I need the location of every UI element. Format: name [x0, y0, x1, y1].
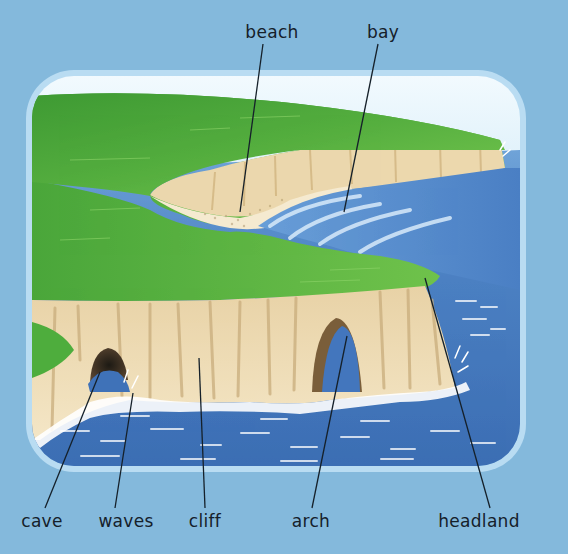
- label-arch: arch: [292, 513, 330, 530]
- label-beach: beach: [245, 24, 298, 41]
- label-headland: headland: [438, 513, 520, 530]
- label-cave: cave: [21, 513, 62, 530]
- coastal-landforms-diagram: beach bay cave waves cliff arch headland: [0, 0, 568, 554]
- illustration: [0, 0, 568, 554]
- scene: [32, 76, 520, 476]
- label-cliff: cliff: [189, 513, 221, 530]
- label-bay: bay: [367, 24, 399, 41]
- label-waves: waves: [98, 513, 153, 530]
